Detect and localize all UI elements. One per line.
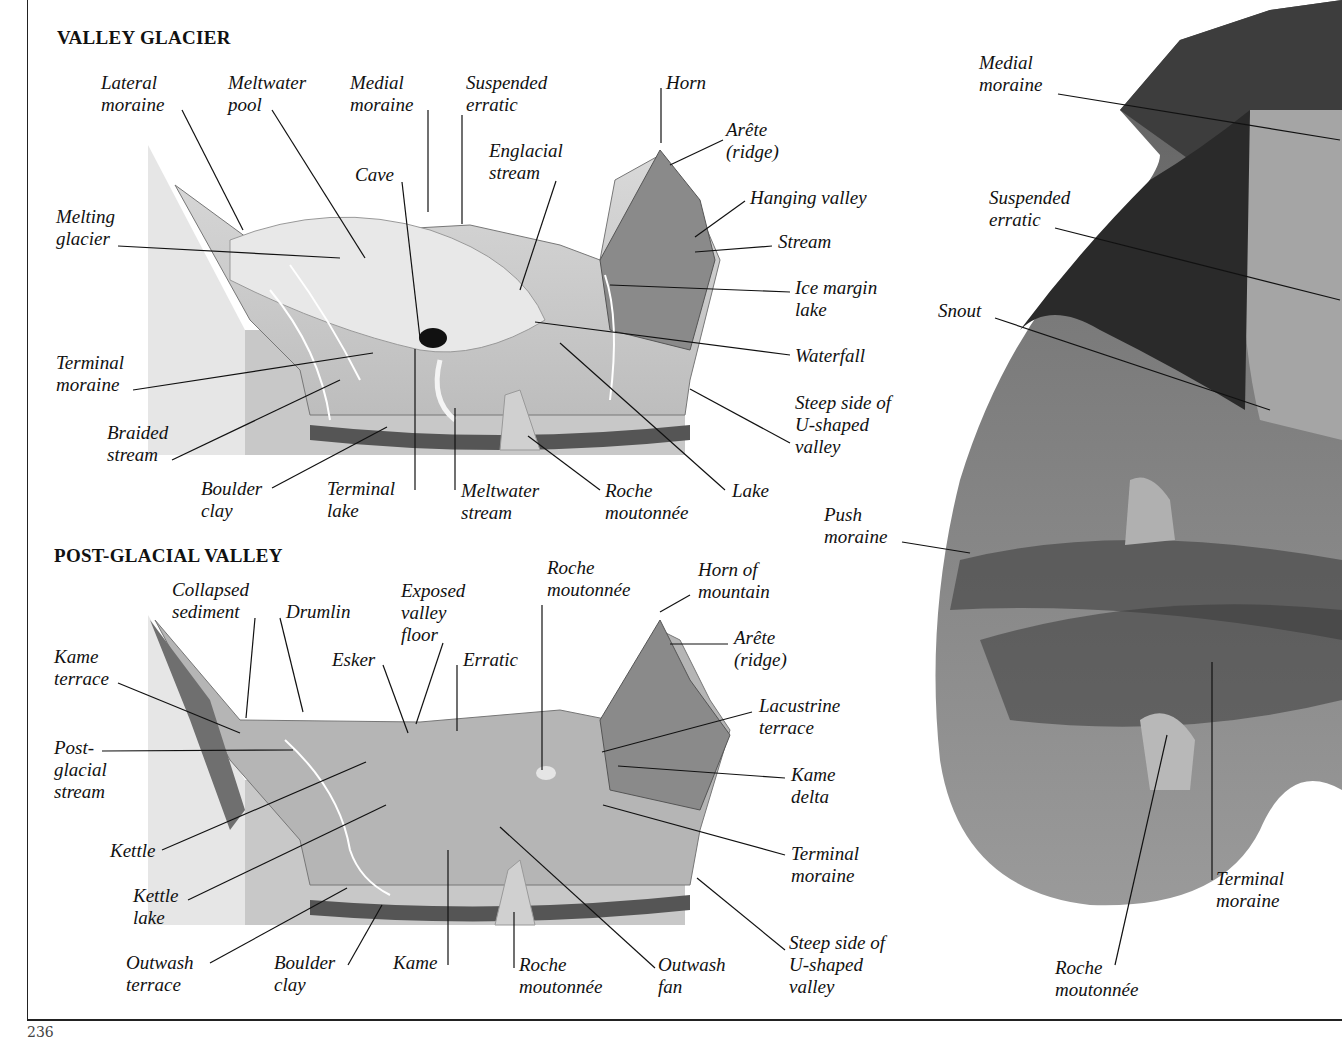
- label-roche-moutonnee-photo: Roche moutonnée: [1055, 957, 1138, 1001]
- label-kame: Kame: [393, 952, 437, 974]
- label-exposed-valley-floor: Exposed valley floor: [401, 580, 465, 646]
- label-roche-moutonnee-top: Roche moutonnée: [547, 557, 630, 601]
- label-cave: Cave: [355, 164, 394, 186]
- label-stream: Stream: [778, 231, 831, 253]
- label-boulder-clay-2: Boulder clay: [274, 952, 335, 996]
- label-terminal-moraine-2: Terminal moraine: [791, 843, 859, 887]
- label-ice-margin-lake: Ice margin lake: [795, 277, 877, 321]
- label-suspended-erratic: Suspended erratic: [466, 72, 547, 116]
- label-lake: Lake: [732, 480, 769, 502]
- label-meltwater-stream: Meltwater stream: [461, 480, 539, 524]
- post-glacial-valley-title: POST-GLACIAL VALLEY: [54, 545, 283, 567]
- label-post-glacial-stream: Post- glacial stream: [54, 737, 107, 803]
- label-hanging-valley: Hanging valley: [750, 187, 867, 209]
- label-drumlin: Drumlin: [286, 601, 350, 623]
- label-waterfall: Waterfall: [795, 345, 865, 367]
- label-meltwater-pool: Meltwater pool: [228, 72, 306, 116]
- label-lacustrine-terrace: Lacustrine terrace: [759, 695, 840, 739]
- label-lateral-moraine: Lateral moraine: [101, 72, 164, 116]
- label-suspended-erratic-photo: Suspended erratic: [989, 187, 1070, 231]
- label-medial-moraine: Medial moraine: [350, 72, 413, 116]
- label-push-moraine: Push moraine: [824, 504, 887, 548]
- label-braided-stream: Braided stream: [107, 422, 168, 466]
- label-roche-moutonnee-2: Roche moutonnée: [519, 954, 602, 998]
- label-horn: Horn: [666, 72, 706, 94]
- label-esker: Esker: [332, 649, 375, 671]
- label-steep-side: Steep side of U-shaped valley: [795, 392, 891, 458]
- label-kettle-lake: Kettle lake: [133, 885, 178, 929]
- label-kettle: Kettle: [110, 840, 155, 862]
- label-horn-of-mountain: Horn of mountain: [698, 559, 770, 603]
- glacier-model-photo: [936, 0, 1342, 905]
- label-melting-glacier: Melting glacier: [56, 206, 115, 250]
- label-outwash-fan: Outwash fan: [658, 954, 726, 998]
- valley-glacier-title: VALLEY GLACIER: [57, 27, 231, 49]
- label-medial-moraine-photo: Medial moraine: [979, 52, 1042, 96]
- label-englacial-stream: Englacial stream: [489, 140, 563, 184]
- label-steep-side-2: Steep side of U-shaped valley: [789, 932, 885, 998]
- post-glacial-valley-illustration: [148, 615, 730, 925]
- label-kame-terrace: Kame terrace: [54, 646, 109, 690]
- label-erratic: Erratic: [463, 649, 518, 671]
- label-arete: Arête (ridge): [726, 119, 779, 163]
- label-outwash-terrace: Outwash terrace: [126, 952, 194, 996]
- label-collapsed-sediment: Collapsed sediment: [172, 579, 249, 623]
- label-terminal-lake: Terminal lake: [327, 478, 395, 522]
- label-arete-2: Arête (ridge): [734, 627, 787, 671]
- label-snout: Snout: [938, 300, 981, 322]
- label-roche-moutonnee: Roche moutonnée: [605, 480, 688, 524]
- label-terminal-moraine-photo: Terminal moraine: [1216, 868, 1284, 912]
- label-kame-delta: Kame delta: [791, 764, 835, 808]
- label-boulder-clay: Boulder clay: [201, 478, 262, 522]
- label-terminal-moraine: Terminal moraine: [56, 352, 124, 396]
